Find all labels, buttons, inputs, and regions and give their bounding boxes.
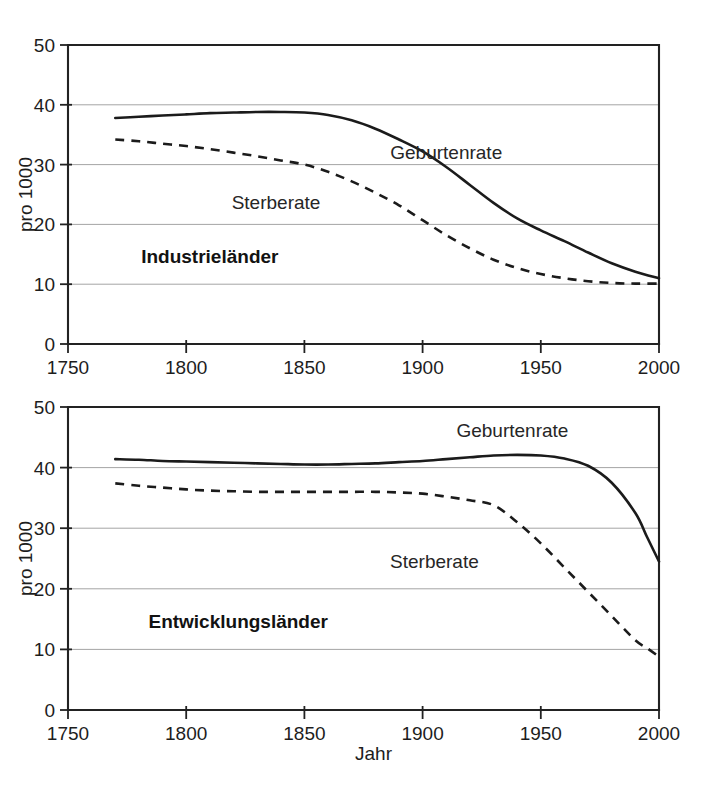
x-tick-label: 1850 [283, 357, 325, 378]
x-axis-title: Jahr [355, 743, 393, 764]
x-tick-label: 1950 [520, 723, 562, 744]
y-axis-title: pro 1000 [15, 157, 36, 232]
x-tick-label: 1900 [401, 357, 443, 378]
plot-frame [68, 45, 659, 344]
plot-frame [68, 407, 659, 710]
y-tick-label: 0 [44, 700, 55, 721]
x-tick-label: 1900 [401, 723, 443, 744]
demographic-transition-figure: 01020304050175018001850190019502000pro 1… [0, 0, 712, 796]
chart-panel-industrielaender: 01020304050175018001850190019502000pro 1… [15, 35, 680, 378]
y-axis-title: pro 1000 [15, 521, 36, 596]
chart-canvas: 01020304050175018001850190019502000pro 1… [0, 0, 712, 796]
death-rate-label: Sterberate [232, 192, 321, 213]
y-tick-label: 20 [34, 214, 55, 235]
y-tick-label: 40 [34, 95, 55, 116]
y-tick-label: 10 [34, 639, 55, 660]
curve-birth-rate [115, 455, 659, 562]
x-tick-label: 2000 [638, 357, 680, 378]
y-tick-label: 40 [34, 458, 55, 479]
y-tick-label: 0 [44, 334, 55, 355]
chart-panel-entwicklungslaender: 01020304050175018001850190019502000pro 1… [15, 397, 680, 764]
y-tick-label: 50 [34, 35, 55, 56]
x-tick-label: 1950 [520, 357, 562, 378]
y-tick-label: 50 [34, 397, 55, 418]
x-tick-label: 2000 [638, 723, 680, 744]
birth-rate-label: Geburtenrate [390, 142, 502, 163]
x-tick-label: 1750 [47, 357, 89, 378]
y-tick-label: 10 [34, 274, 55, 295]
panel-title-label: Industrieländer [141, 246, 279, 267]
x-tick-label: 1800 [165, 357, 207, 378]
y-tick-label: 20 [34, 579, 55, 600]
y-tick-label: 30 [34, 518, 55, 539]
x-tick-label: 1850 [283, 723, 325, 744]
death-rate-label: Sterberate [390, 551, 479, 572]
birth-rate-label: Geburtenrate [456, 420, 568, 441]
x-tick-label: 1800 [165, 723, 207, 744]
y-tick-label: 30 [34, 155, 55, 176]
x-tick-label: 1750 [47, 723, 89, 744]
panel-title-label: Entwicklungsländer [148, 611, 328, 632]
